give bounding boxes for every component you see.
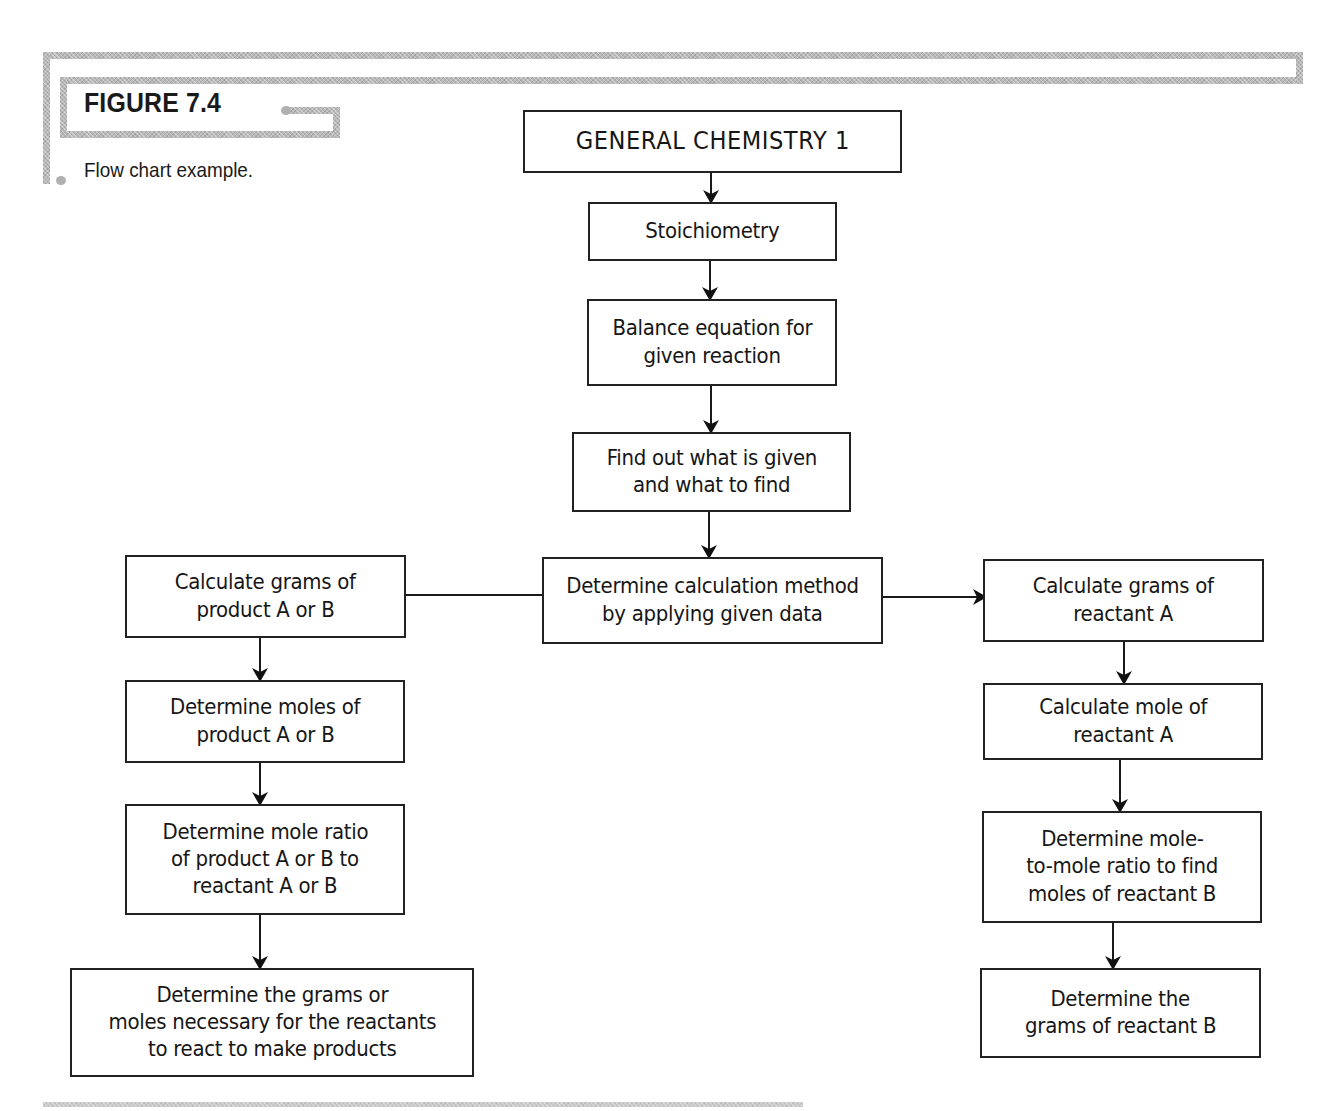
frame-inner-hook-top bbox=[287, 107, 340, 114]
node-text: Calculate mole of bbox=[1039, 694, 1207, 721]
node-text: Determine moles of bbox=[170, 694, 360, 721]
frame-outer-top bbox=[43, 52, 1303, 59]
node-right-grams-reactant-b: Determine the grams of reactant B bbox=[980, 968, 1261, 1058]
node-text: by applying given data bbox=[602, 601, 823, 628]
frame-inner-left bbox=[60, 77, 67, 138]
node-text: reactant A or B bbox=[193, 873, 338, 900]
frame-outer-left bbox=[43, 52, 50, 184]
frame-right-join bbox=[1296, 52, 1303, 84]
node-text: Calculate grams of bbox=[1033, 573, 1214, 600]
node-text: Determine mole ratio bbox=[162, 819, 368, 846]
node-find-given: Find out what is given and what to find bbox=[572, 432, 851, 512]
node-text: reactant A bbox=[1073, 722, 1173, 749]
node-text: Determine the grams or bbox=[156, 982, 388, 1009]
node-right-mole-reactant-a: Calculate mole of reactant A bbox=[983, 683, 1263, 760]
node-right-grams-reactant-a: Calculate grams of reactant A bbox=[983, 559, 1264, 642]
node-text: to react to make products bbox=[148, 1036, 397, 1063]
figure-caption: Flow chart example. bbox=[84, 158, 253, 182]
node-left-moles-product: Determine moles of product A or B bbox=[125, 680, 405, 763]
node-text: Balance equation for bbox=[612, 315, 812, 342]
node-text: reactant A bbox=[1074, 601, 1174, 628]
node-calculation-method: Determine calculation method by applying… bbox=[542, 557, 883, 644]
node-balance-equation: Balance equation for given reaction bbox=[587, 299, 837, 386]
frame-hook-bulb bbox=[281, 106, 291, 115]
node-text: Stoichiometry bbox=[645, 218, 779, 245]
node-text: Determine the bbox=[1051, 986, 1190, 1013]
node-text: to-mole ratio to find bbox=[1026, 853, 1218, 880]
node-left-grams-product: Calculate grams of product A or B bbox=[125, 555, 406, 638]
node-text: moles of reactant B bbox=[1028, 881, 1216, 908]
frame-outer-bulb bbox=[56, 176, 66, 185]
frame-bottom bbox=[43, 1102, 803, 1107]
node-text: moles necessary for the reactants bbox=[108, 1009, 436, 1036]
node-text: and what to find bbox=[633, 472, 790, 499]
node-text: Find out what is given bbox=[606, 445, 816, 472]
node-text: given reaction bbox=[643, 343, 780, 370]
node-text: grams of reactant B bbox=[1025, 1013, 1216, 1040]
node-right-mole-to-mole-ratio: Determine mole- to-mole ratio to find mo… bbox=[982, 811, 1262, 923]
node-stoichiometry: Stoichiometry bbox=[588, 202, 837, 261]
node-text: Calculate grams of bbox=[175, 569, 356, 596]
node-left-grams-or-moles-reactants: Determine the grams or moles necessary f… bbox=[70, 968, 474, 1077]
node-text: GENERAL CHEMISTRY 1 bbox=[575, 126, 849, 157]
node-general-chemistry: GENERAL CHEMISTRY 1 bbox=[523, 110, 902, 173]
node-text: of product A or B to bbox=[171, 846, 359, 873]
frame-inner-bottom bbox=[60, 131, 340, 138]
node-text: Determine mole- bbox=[1041, 826, 1203, 853]
node-left-mole-ratio: Determine mole ratio of product A or B t… bbox=[125, 804, 405, 915]
node-text: product A or B bbox=[196, 722, 334, 749]
figure-label: FIGURE 7.4 bbox=[84, 88, 221, 119]
node-text: Determine calculation method bbox=[566, 573, 858, 600]
frame-inner-top bbox=[60, 77, 1303, 84]
node-text: product A or B bbox=[196, 597, 334, 624]
